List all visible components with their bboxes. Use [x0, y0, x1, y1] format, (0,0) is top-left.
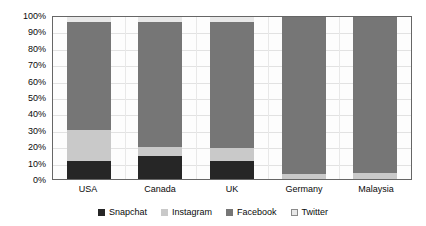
- plot-area: [52, 16, 412, 180]
- legend-entry-instagram[interactable]: Instagram: [161, 208, 212, 217]
- stacked-bar-chart: 100%90%80%70%60%50%40%30%20%10%0% USACan…: [0, 0, 426, 226]
- bar-group-malaysia[interactable]: [339, 17, 411, 179]
- legend-entry-facebook[interactable]: Facebook: [226, 208, 277, 217]
- bar-group-germany[interactable]: [268, 17, 340, 179]
- chart-legend: SnapchatInstagramFacebookTwitter: [0, 205, 426, 219]
- bar-segment-instagram[interactable]: [138, 147, 182, 157]
- bar-segment-facebook[interactable]: [138, 22, 182, 147]
- stacked-bar[interactable]: [210, 17, 254, 179]
- y-tick-label: 50%: [0, 94, 46, 103]
- legend-entry-twitter[interactable]: Twitter: [291, 208, 329, 217]
- legend-label: Snapchat: [109, 208, 147, 217]
- bar-segment-snapchat[interactable]: [67, 161, 111, 179]
- y-tick-label: 90%: [0, 28, 46, 37]
- x-tick-label: USA: [52, 182, 124, 198]
- legend-swatch-icon: [226, 209, 233, 216]
- y-tick-label: 10%: [0, 159, 46, 168]
- bar-segment-instagram[interactable]: [210, 148, 254, 161]
- y-tick-label: 20%: [0, 143, 46, 152]
- legend-label: Facebook: [237, 208, 277, 217]
- x-axis: USACanadaUKGermanyMalaysia: [52, 182, 412, 198]
- bar-segment-facebook[interactable]: [210, 22, 254, 148]
- legend-swatch-icon: [161, 209, 168, 216]
- stacked-bar[interactable]: [67, 17, 111, 179]
- x-tick-label: UK: [196, 182, 268, 198]
- bar-segment-instagram[interactable]: [353, 173, 397, 179]
- stacked-bar[interactable]: [282, 17, 326, 179]
- bar-segment-snapchat[interactable]: [138, 156, 182, 179]
- stacked-bar[interactable]: [353, 17, 397, 179]
- y-tick-label: 60%: [0, 77, 46, 86]
- bar-segment-facebook[interactable]: [282, 17, 326, 174]
- bar-segment-facebook[interactable]: [67, 22, 111, 131]
- y-tick-label: 100%: [0, 12, 46, 21]
- x-tick-label: Canada: [124, 182, 196, 198]
- bar-group-canada[interactable]: [125, 17, 197, 179]
- x-tick-label: Germany: [268, 182, 340, 198]
- legend-label: Instagram: [172, 208, 212, 217]
- legend-swatch-icon: [291, 209, 298, 216]
- bar-segment-instagram[interactable]: [282, 174, 326, 179]
- bar-segment-facebook[interactable]: [353, 17, 397, 173]
- bar-group-usa[interactable]: [53, 17, 125, 179]
- bars-layer: [53, 17, 411, 179]
- stacked-bar[interactable]: [138, 17, 182, 179]
- bar-group-uk[interactable]: [196, 17, 268, 179]
- y-tick-label: 40%: [0, 110, 46, 119]
- bar-segment-instagram[interactable]: [67, 130, 111, 161]
- y-tick-label: 30%: [0, 126, 46, 135]
- legend-label: Twitter: [302, 208, 329, 217]
- x-tick-label: Malaysia: [340, 182, 412, 198]
- legend-swatch-icon: [98, 209, 105, 216]
- y-tick-label: 70%: [0, 61, 46, 70]
- y-tick-label: 80%: [0, 44, 46, 53]
- legend-entry-snapchat[interactable]: Snapchat: [98, 208, 147, 217]
- y-axis: 100%90%80%70%60%50%40%30%20%10%0%: [0, 16, 46, 180]
- bar-segment-snapchat[interactable]: [210, 161, 254, 179]
- y-tick-label: 0%: [0, 176, 46, 185]
